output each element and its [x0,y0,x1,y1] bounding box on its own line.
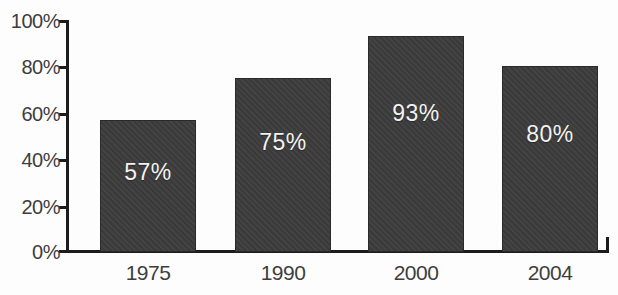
bar-value-1975: 57% [101,161,195,184]
bar-value-1990: 75% [236,131,330,154]
bar-1975: 57% [100,120,196,252]
x-axis-label-1990: 1990 [235,262,331,283]
x-axis-label-1975: 1975 [100,262,196,283]
plot-area: 57% 75% 93% 80% [0,0,618,295]
bar-value-2000: 93% [369,102,463,125]
bar-2000: 93% [368,36,464,252]
bar-value-2004: 80% [503,123,597,146]
bar-chart: 100% 80% 60% 40% 20% 0% 57% 75% 93% 80% … [0,0,618,295]
x-axis-label-2000: 2000 [368,262,464,283]
bar-1990: 75% [235,78,331,252]
x-axis-label-2004: 2004 [502,262,598,283]
bar-2004: 80% [502,66,598,252]
